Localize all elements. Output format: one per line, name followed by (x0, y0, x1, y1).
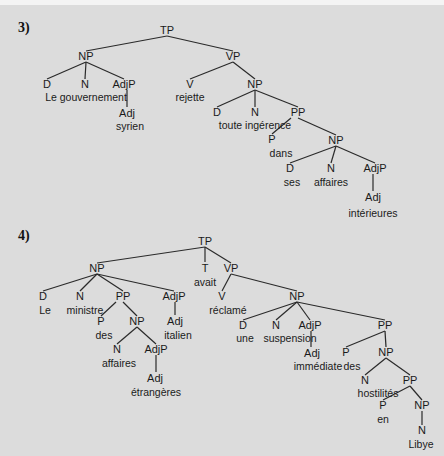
terminal-word: Le gouvernement (45, 92, 127, 103)
tree-branch (298, 118, 336, 135)
tree-branch (276, 302, 297, 320)
node-vp: VP (226, 51, 241, 62)
node-adjp: AdjP (298, 320, 321, 331)
node-p: P (342, 347, 349, 358)
tree-branch (386, 358, 410, 375)
node-v: V (186, 79, 193, 90)
tree-branch (231, 274, 297, 291)
node-np: NP (78, 51, 93, 62)
tree-branch (47, 62, 86, 79)
node-pp: PP (403, 375, 418, 386)
node-d: D (239, 320, 247, 331)
node-d: D (213, 107, 221, 118)
node-n: N (76, 291, 84, 302)
terminal-word: ses (284, 177, 300, 188)
tree-branch (243, 302, 297, 320)
tree-branch (331, 146, 336, 163)
tree-branch (365, 358, 386, 375)
node-n: N (251, 107, 259, 118)
node-v: V (218, 291, 225, 302)
node-d: D (286, 163, 294, 174)
node-t: T (202, 263, 209, 274)
tree-branch (97, 247, 205, 263)
tree-branch (137, 327, 156, 344)
terminal-word: intérieures (348, 208, 397, 219)
terminal-word: affaires (102, 358, 136, 369)
tree-branch (117, 327, 137, 344)
terminal-word: Libye (408, 439, 433, 450)
node-vp: VP (224, 263, 239, 274)
node-n: N (81, 79, 89, 90)
terminal-word: rejette (175, 92, 204, 103)
node-adj: Adj (147, 373, 163, 384)
node-np: NP (289, 291, 304, 302)
tree-branch (255, 90, 298, 107)
node-adj: Adj (365, 192, 381, 203)
tree-branch (336, 146, 375, 163)
node-n: N (272, 320, 280, 331)
node-p: P (268, 134, 275, 145)
node-p: P (97, 316, 104, 327)
node-pp: PP (378, 320, 393, 331)
node-np: NP (129, 316, 144, 327)
terminal-word: des (344, 361, 361, 372)
terminal-word: une (236, 333, 254, 344)
terminal-word: toute ingérence (219, 120, 291, 131)
terminal-word: en (377, 414, 389, 425)
node-adjp: AdjP (162, 291, 185, 302)
node-n: N (113, 344, 121, 355)
node-np: NP (414, 400, 429, 411)
node-d: D (43, 79, 51, 90)
node-d: D (39, 291, 47, 302)
tree-branch (290, 146, 336, 163)
node-np: NP (89, 263, 104, 274)
node-pp: PP (116, 291, 131, 302)
tree-branch (97, 274, 174, 291)
node-adjp: AdjP (144, 344, 167, 355)
tree-branch (167, 36, 233, 51)
node-np: NP (378, 347, 393, 358)
node-n: N (361, 375, 369, 386)
tree-branch (86, 62, 124, 79)
node-adj: Adj (304, 348, 320, 359)
node-np: NP (328, 135, 343, 146)
terminal-word: syrien (116, 121, 144, 132)
tree-branch (190, 62, 233, 79)
terminal-word: réclamé (209, 305, 246, 316)
node-p: P (379, 400, 386, 411)
tree-branch (217, 90, 255, 107)
example-number-4: 4) (18, 228, 30, 244)
tree-branch (233, 62, 255, 79)
terminal-word: Le (39, 305, 51, 316)
example-number-3: 3) (18, 20, 30, 36)
terminal-word: suspension (263, 333, 316, 344)
node-tp: TP (198, 236, 212, 247)
tree-branch (85, 62, 86, 79)
node-adjp: AdjP (363, 163, 386, 174)
terminal-word: étrangères (131, 387, 181, 398)
terminal-word: italien (164, 330, 191, 341)
node-np: NP (247, 79, 262, 90)
node-pp: PP (291, 107, 306, 118)
tree-branch (222, 274, 231, 291)
terminal-word: des (96, 330, 113, 341)
terminal-word: avait (194, 277, 216, 288)
node-tp: TP (160, 25, 174, 36)
tree-branch (297, 302, 385, 320)
node-n: N (418, 425, 426, 436)
terminal-word: hostilités (358, 388, 399, 399)
node-adj: Adj (167, 316, 183, 327)
terminal-word: dans (270, 148, 293, 159)
terminal-word: immédiate (294, 361, 342, 372)
terminal-word: affaires (314, 177, 348, 188)
tree-3-branches (47, 36, 375, 191)
node-adj: Adj (119, 108, 135, 119)
node-n: N (327, 163, 335, 174)
tree-branch (86, 36, 167, 51)
node-adjp: AdjP (112, 79, 135, 90)
